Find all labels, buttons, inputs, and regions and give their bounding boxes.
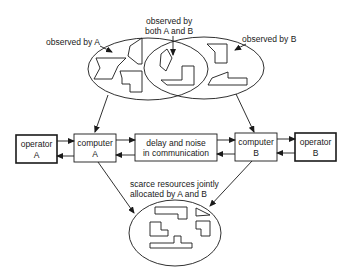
label-observed-b: observed by B bbox=[242, 34, 297, 44]
operator-a-label-1: operator bbox=[21, 139, 53, 149]
scarce-label-1: scarce resources jointly bbox=[130, 179, 220, 189]
computer-a-label-2: A bbox=[92, 149, 98, 159]
operator-b-label-2: B bbox=[313, 148, 319, 158]
ellipse-scarce-resources bbox=[129, 200, 221, 266]
computer-a-label-1: computer bbox=[77, 138, 113, 148]
ellipse-observed-a bbox=[88, 38, 208, 100]
shapes-scarce-resources bbox=[150, 207, 210, 248]
computer-b-label-2: B bbox=[253, 148, 259, 158]
shapes-observed-b bbox=[207, 44, 247, 85]
label-observed-both-2: both A and B bbox=[145, 26, 194, 36]
computer-b-label-1: computer bbox=[238, 137, 274, 147]
delay-label-2: in communication bbox=[143, 148, 209, 158]
shapes-observed-both bbox=[160, 49, 194, 85]
diagram: observed by A observed by both A and B o… bbox=[0, 0, 351, 272]
delay-label-1: delay and noise bbox=[146, 138, 206, 148]
label-observed-a: observed by A bbox=[46, 37, 100, 47]
label-observed-both-1: observed by bbox=[146, 16, 193, 26]
scarce-label-2: allocated by A and B bbox=[130, 189, 207, 199]
operator-b-label-1: operator bbox=[300, 137, 332, 147]
operator-a-label-2: A bbox=[34, 150, 40, 160]
